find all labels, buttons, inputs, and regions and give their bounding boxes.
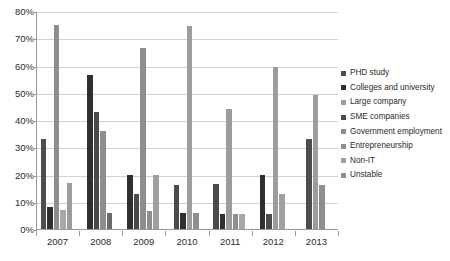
legend-swatch-icon bbox=[341, 144, 346, 149]
x-axis-tick bbox=[122, 231, 123, 236]
legend-swatch-icon bbox=[341, 100, 346, 105]
y-axis-label: 60% bbox=[2, 62, 34, 72]
y-axis-tick bbox=[33, 94, 37, 95]
legend-item-label: Entrepreneurship bbox=[350, 142, 413, 150]
legend-item-label: Government employment bbox=[350, 128, 442, 136]
bar bbox=[54, 25, 60, 229]
bar bbox=[279, 194, 285, 229]
legend-swatch-icon bbox=[341, 85, 346, 90]
legend-item-label: PHD study bbox=[350, 69, 389, 77]
bar bbox=[193, 213, 199, 229]
bar-chart: 0%10%20%30%40%50%60%70%80% 2007200820092… bbox=[0, 0, 450, 261]
chart-legend: PHD studyColleges and universityLarge co… bbox=[341, 66, 449, 183]
bar bbox=[220, 214, 226, 229]
bar bbox=[134, 194, 140, 229]
bar bbox=[94, 112, 100, 229]
x-axis-label: 2008 bbox=[90, 236, 111, 247]
legend-item-label: Colleges and university bbox=[350, 84, 435, 92]
bar bbox=[60, 210, 66, 229]
x-axis-tick bbox=[295, 231, 296, 236]
x-axis-tick bbox=[338, 231, 339, 236]
gridline bbox=[37, 12, 338, 13]
legend-item-label: Large company bbox=[350, 98, 406, 106]
bar bbox=[266, 214, 272, 229]
y-axis-label: 0% bbox=[2, 225, 34, 235]
legend-item[interactable]: Government employment bbox=[341, 124, 449, 139]
bar bbox=[187, 26, 193, 229]
legend-swatch-icon bbox=[341, 129, 346, 134]
y-axis-tick bbox=[33, 148, 37, 149]
y-axis-label: 10% bbox=[2, 198, 34, 208]
bar bbox=[226, 109, 232, 229]
y-axis-tick bbox=[33, 67, 37, 68]
plot-area bbox=[36, 12, 338, 230]
legend-item[interactable]: Entrepreneurship bbox=[341, 139, 449, 154]
bar bbox=[174, 185, 180, 229]
y-axis-tick bbox=[33, 39, 37, 40]
y-axis-label: 50% bbox=[2, 89, 34, 99]
bar bbox=[313, 95, 319, 229]
x-axis-tick bbox=[209, 231, 210, 236]
bar bbox=[47, 207, 53, 229]
bar bbox=[213, 184, 219, 229]
x-axis-label: 2011 bbox=[220, 236, 240, 247]
legend-item-label: SME companies bbox=[350, 113, 410, 121]
x-axis-tick bbox=[79, 231, 80, 236]
x-axis-label: 2013 bbox=[306, 236, 327, 247]
bar bbox=[306, 139, 312, 229]
bar bbox=[87, 75, 93, 229]
bar bbox=[273, 67, 279, 229]
legend-item-label: Unstable bbox=[350, 171, 382, 179]
legend-item[interactable]: Colleges and university bbox=[341, 81, 449, 96]
bar bbox=[127, 175, 133, 230]
legend-swatch-icon bbox=[341, 173, 346, 178]
bar bbox=[107, 213, 113, 229]
x-axis-label: 2010 bbox=[176, 236, 197, 247]
legend-swatch-icon bbox=[341, 115, 346, 120]
x-axis-tick bbox=[165, 231, 166, 236]
y-axis-tick bbox=[33, 203, 37, 204]
bar bbox=[100, 131, 106, 229]
bar bbox=[239, 214, 245, 229]
bar bbox=[319, 185, 325, 229]
legend-item[interactable]: PHD study bbox=[341, 66, 449, 81]
bar bbox=[140, 48, 146, 229]
legend-item[interactable]: Unstable bbox=[341, 168, 449, 183]
y-axis-tick bbox=[33, 12, 37, 13]
y-axis: 0%10%20%30%40%50%60%70%80% bbox=[0, 12, 34, 230]
bar bbox=[153, 175, 159, 230]
legend-item[interactable]: SME companies bbox=[341, 110, 449, 125]
x-axis-tick bbox=[36, 231, 37, 236]
y-axis-label: 30% bbox=[2, 144, 34, 154]
y-axis-label: 20% bbox=[2, 171, 34, 181]
legend-swatch-icon bbox=[341, 71, 346, 76]
bar bbox=[233, 214, 239, 229]
y-axis-tick bbox=[33, 121, 37, 122]
legend-item-label: Non-IT bbox=[350, 157, 375, 165]
y-axis-label: 70% bbox=[2, 35, 34, 45]
bar bbox=[260, 175, 266, 230]
x-axis-label: 2009 bbox=[133, 236, 154, 247]
legend-swatch-icon bbox=[341, 158, 346, 163]
y-axis-label: 80% bbox=[2, 7, 34, 17]
legend-item[interactable]: Non-IT bbox=[341, 154, 449, 169]
legend-item[interactable]: Large company bbox=[341, 95, 449, 110]
x-axis-label: 2012 bbox=[263, 236, 284, 247]
bar bbox=[41, 139, 47, 229]
y-axis-tick bbox=[33, 176, 37, 177]
x-axis-tick bbox=[252, 231, 253, 236]
x-axis-label: 2007 bbox=[47, 236, 68, 247]
y-axis-label: 40% bbox=[2, 116, 34, 126]
bar bbox=[147, 211, 153, 229]
bar bbox=[180, 213, 186, 229]
x-axis: 2007200820092010201120122013 bbox=[36, 231, 338, 253]
bar bbox=[67, 183, 73, 229]
